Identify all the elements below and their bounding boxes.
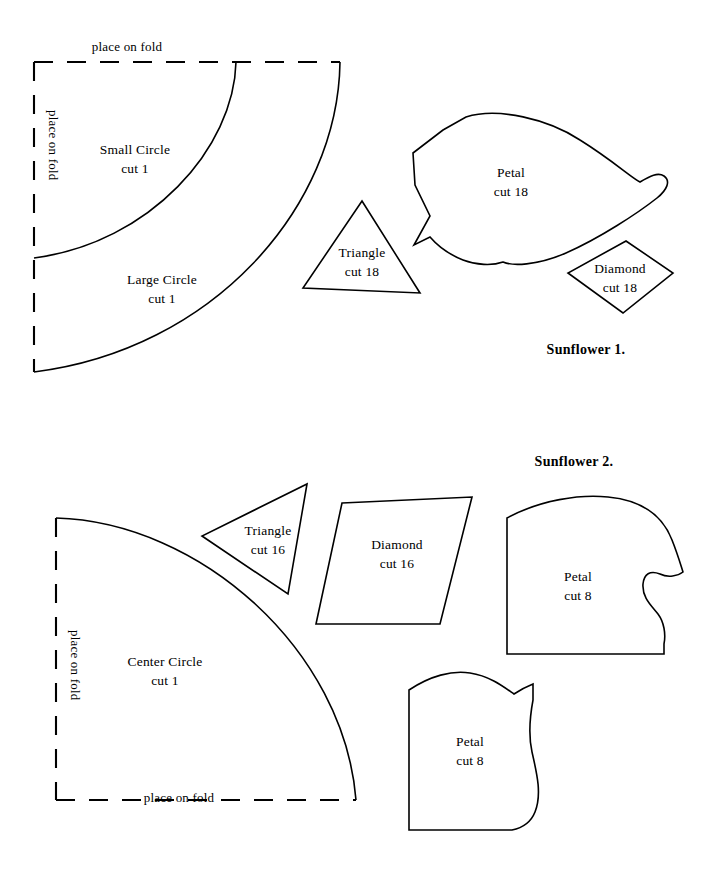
piece-cut: cut 8 — [456, 751, 484, 770]
piece-name: Diamond — [594, 261, 646, 276]
piece-name: Petal — [497, 165, 525, 180]
piece-cut: cut 18 — [594, 278, 646, 297]
piece-name: Center Circle — [128, 654, 203, 669]
piece-label-large-circle: Large Circle cut 1 — [127, 270, 197, 308]
fold-label-bottom-section2: place on fold — [144, 789, 214, 807]
piece-label-triangle-section1: Triangle cut 18 — [339, 243, 386, 281]
fold-label-top-section1: place on fold — [92, 38, 162, 56]
piece-name: Petal — [456, 734, 484, 749]
piece-cut: cut 8 — [564, 586, 592, 605]
pattern-sheet: place on fold place on fold Small Circle… — [0, 0, 710, 871]
piece-name: Small Circle — [100, 142, 170, 157]
piece-label-petal-upper-section2: Petal cut 8 — [564, 567, 592, 605]
piece-cut: cut 18 — [494, 182, 529, 201]
arc-large-circle — [34, 62, 340, 372]
piece-cut: cut 1 — [127, 289, 197, 308]
shape-petal-section1 — [413, 113, 668, 264]
piece-name: Large Circle — [127, 272, 197, 287]
piece-cut: cut 16 — [371, 554, 423, 573]
shape-petal-upper-section2 — [507, 496, 683, 654]
piece-cut: cut 1 — [100, 159, 170, 178]
piece-name: Triangle — [339, 245, 386, 260]
arc-center-circle — [56, 518, 356, 800]
section-title-sunflower-1: Sunflower 1. — [547, 340, 626, 360]
section-title-sunflower-2: Sunflower 2. — [535, 452, 614, 472]
pattern-drawing-canvas — [0, 0, 710, 871]
piece-cut: cut 1 — [128, 671, 203, 690]
piece-label-triangle-section2: Triangle cut 16 — [245, 521, 292, 559]
piece-label-petal-section1: Petal cut 18 — [494, 163, 529, 201]
piece-name: Diamond — [371, 537, 423, 552]
fold-label-left-section2: place on fold — [66, 630, 84, 700]
piece-cut: cut 18 — [339, 262, 386, 281]
piece-label-diamond-section2: Diamond cut 16 — [371, 535, 423, 573]
piece-name: Triangle — [245, 523, 292, 538]
fold-label-left-section1: place on fold — [44, 110, 62, 180]
piece-label-center-circle: Center Circle cut 1 — [128, 652, 203, 690]
piece-label-small-circle: Small Circle cut 1 — [100, 140, 170, 178]
piece-label-diamond-section1: Diamond cut 18 — [594, 259, 646, 297]
piece-cut: cut 16 — [245, 540, 292, 559]
piece-label-petal-lower-section2: Petal cut 8 — [456, 732, 484, 770]
piece-name: Petal — [564, 569, 592, 584]
